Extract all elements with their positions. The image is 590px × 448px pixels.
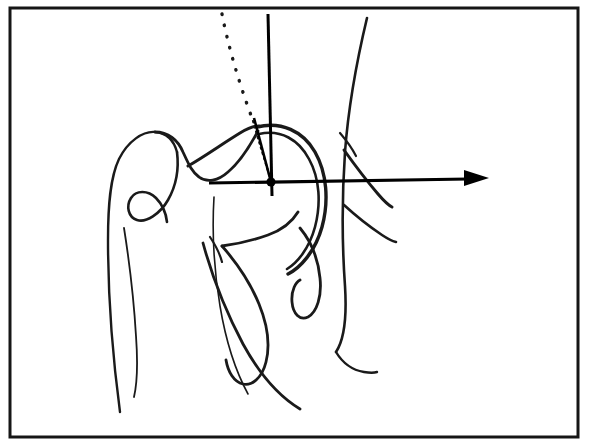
figure-root <box>0 0 590 448</box>
hip-joint-diagram-canvas <box>0 0 590 448</box>
rotation-center-marker <box>266 177 275 186</box>
figure-background <box>0 0 590 448</box>
